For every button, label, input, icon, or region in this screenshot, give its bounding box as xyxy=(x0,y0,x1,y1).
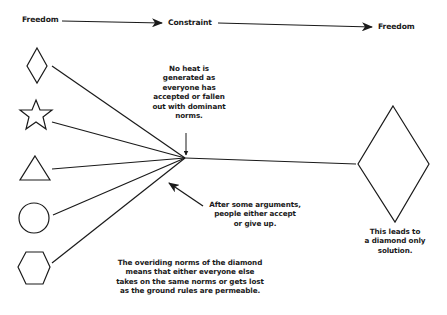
triangle-shape-icon xyxy=(20,156,50,180)
outgoing-line xyxy=(185,158,356,164)
flow-arrow-freedom-to-constraint xyxy=(62,21,162,23)
annotation-outcome: This leads to a diamond only solution. xyxy=(355,227,435,255)
stage-label-freedom-start: Freedom xyxy=(22,15,59,24)
star-shape-icon xyxy=(20,100,52,129)
large-diamond-shape-icon xyxy=(358,106,429,222)
stage-label-constraint: Constraint xyxy=(168,18,212,27)
circle-shape-icon xyxy=(19,203,49,233)
hexagon-shape-icon xyxy=(18,252,50,284)
annotation-no-heat: No heat is generated as everyone has acc… xyxy=(148,64,230,120)
stage-label-freedom-end: Freedom xyxy=(378,22,415,31)
diamond-shape-icon xyxy=(27,48,47,83)
flow-arrow-constraint-to-freedom xyxy=(218,23,372,27)
annotation-overriding-norms: The overiding norms of the diamond means… xyxy=(110,258,270,296)
annotation-arguments: After some arguments, people either acce… xyxy=(195,200,315,228)
